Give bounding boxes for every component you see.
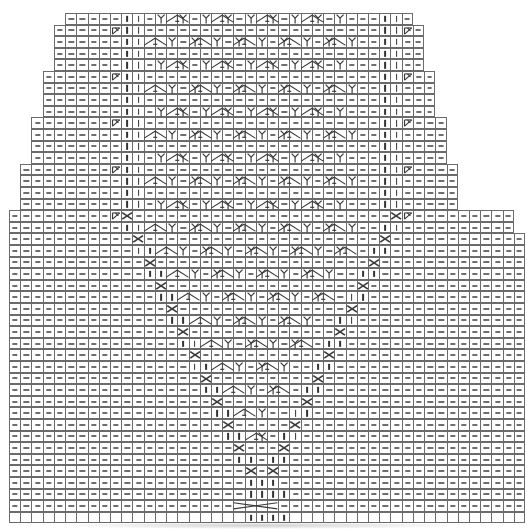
purl-symbol xyxy=(158,505,163,507)
purl-symbol xyxy=(439,285,444,287)
chart-cell xyxy=(31,465,42,477)
purl-symbol xyxy=(439,122,444,124)
chart-cell xyxy=(88,268,99,280)
chart-cell xyxy=(278,13,289,25)
purl-symbol xyxy=(371,238,376,240)
purl-symbol xyxy=(69,111,74,113)
chart-cell xyxy=(211,106,222,118)
purl-symbol xyxy=(428,331,433,333)
make-one-symbol xyxy=(246,292,256,302)
purl-symbol xyxy=(158,354,163,356)
chart-cell xyxy=(211,326,222,338)
chart-cell xyxy=(155,291,166,303)
chart-cell xyxy=(503,477,514,489)
purl-symbol xyxy=(394,319,399,321)
chart-cell xyxy=(435,500,446,512)
purl-symbol xyxy=(158,401,163,403)
chart-cell xyxy=(222,338,233,350)
chart-cell xyxy=(346,83,357,95)
purl-symbol xyxy=(214,354,219,356)
purl-symbol xyxy=(57,308,62,310)
purl-symbol xyxy=(102,169,107,171)
chart-cell xyxy=(491,268,502,280)
chart-cell xyxy=(390,141,401,153)
chart-cell xyxy=(323,152,334,164)
chart-cell xyxy=(31,303,42,315)
chart-cell xyxy=(435,326,446,338)
purl-symbol xyxy=(371,435,376,437)
purl-symbol xyxy=(35,505,40,507)
purl-symbol xyxy=(102,134,107,136)
chart-cell xyxy=(413,396,424,408)
chart-cell xyxy=(323,175,334,187)
chart-row xyxy=(9,431,525,443)
chart-cell xyxy=(222,106,233,118)
purl-symbol xyxy=(270,99,275,101)
chart-cell xyxy=(379,187,390,199)
purl-symbol xyxy=(259,447,264,449)
purl-symbol xyxy=(102,250,107,252)
chart-cell xyxy=(144,500,155,512)
make-one-symbol xyxy=(178,14,188,24)
purl-symbol xyxy=(383,308,388,310)
purl-symbol xyxy=(248,401,253,403)
purl-symbol xyxy=(147,505,152,507)
knit-symbol xyxy=(126,50,128,56)
chart-cell xyxy=(54,48,65,60)
purl-symbol xyxy=(428,389,433,391)
chart-cell xyxy=(346,280,357,292)
purl-symbol xyxy=(69,192,74,194)
purl-symbol xyxy=(12,493,17,495)
chart-cell xyxy=(346,257,357,269)
chart-cell xyxy=(110,500,121,512)
chart-cell xyxy=(379,13,390,25)
purl-symbol xyxy=(506,447,511,449)
chart-cell xyxy=(132,280,143,292)
purl-symbol xyxy=(181,192,186,194)
chart-cell xyxy=(132,233,143,245)
chart-cell xyxy=(267,465,278,477)
chart-cell xyxy=(289,141,300,153)
purl-symbol xyxy=(293,308,298,310)
purl-symbol xyxy=(495,238,500,240)
make-one-symbol xyxy=(201,60,211,70)
chart-cell xyxy=(278,141,289,153)
chart-cell xyxy=(379,373,390,385)
make-one-symbol xyxy=(290,14,300,24)
chart-cell xyxy=(222,361,233,373)
chart-cell xyxy=(278,210,289,222)
chart-cell xyxy=(278,489,289,501)
chart-cell xyxy=(278,199,289,211)
purl-symbol xyxy=(46,134,51,136)
chart-cell xyxy=(222,291,233,303)
purl-symbol xyxy=(125,459,130,461)
chart-cell xyxy=(503,291,514,303)
purl-symbol xyxy=(371,343,376,345)
purl-symbol xyxy=(259,354,264,356)
purl-symbol xyxy=(46,377,51,379)
chart-cell xyxy=(424,94,435,106)
chart-cell xyxy=(54,303,65,315)
chart-cell xyxy=(76,187,87,199)
chart-cell xyxy=(413,419,424,431)
chart-cell xyxy=(144,187,155,199)
chart-cell xyxy=(76,280,87,292)
purl-symbol xyxy=(46,111,51,113)
purl-symbol xyxy=(181,493,186,495)
purl-symbol xyxy=(506,296,511,298)
purl-symbol xyxy=(427,87,432,89)
chart-cell xyxy=(233,36,244,48)
chart-cell xyxy=(413,442,424,454)
purl-symbol xyxy=(282,331,287,333)
purl-symbol xyxy=(12,435,17,437)
chart-cell xyxy=(491,489,502,501)
purl-symbol xyxy=(24,215,29,217)
chart-cell xyxy=(402,326,413,338)
purl-symbol xyxy=(439,227,444,229)
chart-cell xyxy=(222,141,233,153)
chart-cell xyxy=(43,187,54,199)
purl-symbol xyxy=(12,273,17,275)
purl-symbol xyxy=(147,203,152,205)
chart-cell xyxy=(222,280,233,292)
chart-cell xyxy=(9,489,20,501)
